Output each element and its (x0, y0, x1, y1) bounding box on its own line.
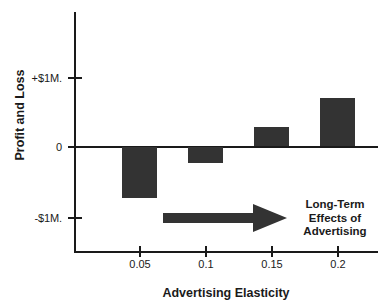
zero-baseline (74, 146, 378, 148)
bar-0.2 (320, 98, 355, 146)
bar-0.1 (188, 147, 223, 163)
chart-figure: +$1M.0-$1M. 0.050.10.150.2 Profit and Lo… (0, 0, 385, 308)
annotation-line-1: Long-Term (288, 198, 382, 212)
bar-0.15 (254, 127, 289, 146)
x-axis-tick-label: 0.05 (110, 258, 170, 270)
y-axis-tick (68, 146, 82, 148)
y-axis-tick-label: 0 (0, 141, 62, 153)
x-axis-tick (337, 246, 339, 257)
long-term-effects-label: Long-Term Effects of Advertising (288, 198, 382, 239)
x-axis-title: Advertising Elasticity (74, 286, 378, 300)
x-axis-tick (205, 246, 207, 257)
x-axis-line (74, 251, 378, 253)
x-axis-tick (271, 246, 273, 257)
bar-0.05 (122, 147, 157, 198)
x-axis-tick-label: 0.2 (308, 258, 368, 270)
annotation-line-3: Advertising (288, 225, 382, 239)
x-axis-tick (139, 246, 141, 257)
y-axis-tick (68, 77, 82, 79)
y-axis-tick-label: -$1M. (0, 212, 62, 224)
y-axis-title: Profit and Loss (13, 55, 27, 175)
x-axis-tick-label: 0.15 (242, 258, 302, 270)
annotation-line-2: Effects of (288, 212, 382, 226)
x-axis-tick-label: 0.1 (176, 258, 236, 270)
long-term-effects-arrow-icon (163, 202, 287, 234)
y-axis-tick (68, 217, 82, 219)
y-axis-tick-label: +$1M. (0, 72, 62, 84)
